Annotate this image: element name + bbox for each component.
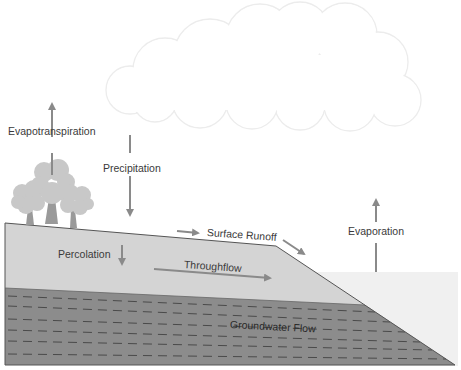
surface-runoff-arrow-1 xyxy=(177,231,198,233)
water-cycle-diagram xyxy=(0,0,461,370)
label-evapotranspiration: Evapotranspiration xyxy=(8,125,96,137)
label-percolation: Percolation xyxy=(58,248,111,260)
label-evaporation: Evaporation xyxy=(348,225,404,237)
label-precipitation: Precipitation xyxy=(103,162,161,174)
surface-runoff-arrow-2 xyxy=(283,240,304,254)
